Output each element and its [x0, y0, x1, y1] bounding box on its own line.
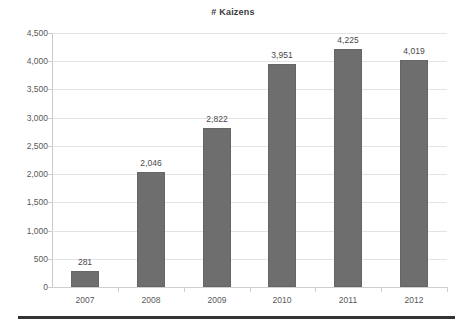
plot-area: 2812,0462,8223,9514,2254,019: [52, 33, 447, 287]
bar-value-label: 2,046: [121, 159, 181, 168]
y-axis-tick-mark: [48, 118, 52, 119]
x-axis-tick-label: 2012: [384, 296, 444, 305]
bar-value-label: 3,951: [252, 51, 312, 60]
chart-title: # Kaizens: [0, 7, 466, 17]
y-axis-tick-mark: [48, 231, 52, 232]
y-axis-tick-label: 2,000: [4, 170, 48, 179]
gridline: [52, 33, 447, 34]
x-axis-tick-label: 2007: [55, 296, 115, 305]
y-axis-tick-mark: [48, 202, 52, 203]
y-axis-tick-mark: [48, 259, 52, 260]
y-axis-tick-label: 3,500: [4, 85, 48, 94]
bar-value-label: 4,225: [318, 36, 378, 45]
y-axis-tick-mark: [48, 61, 52, 62]
x-axis-tick-label: 2009: [187, 296, 247, 305]
bar[interactable]: [268, 64, 296, 287]
x-axis-tick-mark: [250, 288, 251, 292]
bar[interactable]: [334, 49, 362, 287]
y-axis-tick-mark: [48, 174, 52, 175]
x-axis-tick-mark: [447, 288, 448, 292]
x-axis-tick-label: 2008: [121, 296, 181, 305]
gridline: [52, 89, 447, 90]
y-axis-tick-mark: [48, 33, 52, 34]
bar[interactable]: [137, 172, 165, 287]
y-axis-tick-mark: [48, 287, 52, 288]
bar[interactable]: [71, 271, 99, 287]
y-axis-tick-label: 500: [4, 255, 48, 264]
bar-value-label: 4,019: [384, 47, 444, 56]
x-axis-tick-mark: [381, 288, 382, 292]
x-axis-tick-mark: [315, 288, 316, 292]
gridline: [52, 202, 447, 203]
y-axis-tick-label: 4,500: [4, 29, 48, 38]
gridline: [52, 231, 447, 232]
x-axis-tick-mark: [118, 288, 119, 292]
y-axis-tick-mark: [48, 89, 52, 90]
y-axis-tick-label: 1,000: [4, 227, 48, 236]
gridline: [52, 118, 447, 119]
gridline: [52, 61, 447, 62]
y-axis-tick-label: 4,000: [4, 57, 48, 66]
bar[interactable]: [400, 60, 428, 287]
bar-value-label: 2,822: [187, 115, 247, 124]
x-axis-tick-label: 2010: [252, 296, 312, 305]
bar-value-label: 281: [55, 258, 115, 267]
x-axis-tick-label: 2011: [318, 296, 378, 305]
gridline: [52, 146, 447, 147]
gridline: [52, 174, 447, 175]
y-axis-tick-label: 1,500: [4, 198, 48, 207]
y-axis-tick-labels: 05001,0001,5002,0002,5003,0003,5004,0004…: [0, 0, 48, 331]
bottom-divider-rule: [18, 316, 455, 319]
y-axis-tick-mark: [48, 146, 52, 147]
bar[interactable]: [203, 128, 231, 287]
y-axis-tick-label: 2,500: [4, 142, 48, 151]
bar-chart: # Kaizens 05001,0001,5002,0002,5003,0003…: [0, 0, 466, 331]
x-axis-tick-mark: [184, 288, 185, 292]
y-axis-tick-label: 0: [4, 283, 48, 292]
y-axis-tick-label: 3,000: [4, 114, 48, 123]
